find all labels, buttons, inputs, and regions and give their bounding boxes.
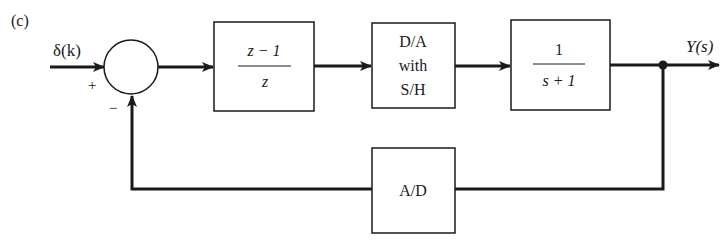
plant-denominator: s + 1 xyxy=(542,72,575,89)
dac-line-1: D/A xyxy=(399,33,427,50)
block-diagram: (c) δ(k) + − z − 1 z D/A with S/H 1 s + … xyxy=(0,0,728,249)
dac-line-2: with xyxy=(399,57,427,74)
plant-block xyxy=(511,20,610,110)
adc-label: A/D xyxy=(399,182,427,199)
summing-junction xyxy=(104,40,158,94)
figure-label: (c) xyxy=(11,12,29,30)
input-signal-label: δ(k) xyxy=(53,41,81,60)
output-signal-label: Y(s) xyxy=(686,37,714,56)
plus-sign: + xyxy=(88,77,96,93)
dac-line-3: S/H xyxy=(401,81,426,98)
controller-denominator: z xyxy=(261,73,269,90)
controller-numerator: z − 1 xyxy=(246,42,280,59)
minus-sign: − xyxy=(109,100,117,116)
plant-numerator: 1 xyxy=(555,41,563,58)
